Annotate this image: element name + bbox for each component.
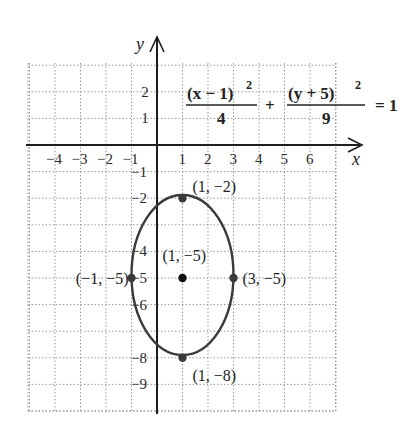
eq-term1-denominator: 4 [217, 109, 226, 128]
eq-term1-numerator: (x − 1) [187, 84, 234, 103]
y-tick-label: 2 [141, 84, 149, 100]
vertex-point [178, 194, 186, 202]
x-tick-label: 5 [281, 151, 289, 167]
y-tick-label: −2 [131, 190, 147, 206]
x-tick-label: −2 [97, 151, 113, 167]
y-tick-label: −9 [131, 376, 147, 392]
y-tick-label: 1 [141, 110, 149, 126]
equation: (x − 1) 2 4 + (y + 5) 2 9 = 1 [186, 78, 397, 128]
point-label: (3, −5) [243, 270, 287, 288]
y-tick-label: −1 [131, 164, 147, 180]
ellipse-graph: x y −4−3−2−1123456 21−1−2−4−5−6−8−9 (1, … [0, 0, 419, 429]
x-tick-label: 3 [230, 151, 238, 167]
x-tick-label: 6 [306, 151, 314, 167]
eq-rhs: = 1 [375, 96, 397, 115]
y-tick-labels: 21−1−2−4−5−6−8−9 [131, 84, 149, 393]
eq-plus: + [265, 96, 275, 115]
y-axis-label: y [134, 34, 144, 54]
vertex-point [178, 354, 186, 362]
x-tick-label: −3 [72, 151, 88, 167]
eq-term2-exponent: 2 [355, 78, 361, 92]
point-label: (−1, −5) [76, 270, 129, 288]
x-tick-label: 4 [255, 151, 263, 167]
point-label: (1, −2) [193, 178, 237, 196]
vertex-point [127, 274, 135, 282]
eq-term1-exponent: 2 [246, 78, 252, 92]
y-tick-label: −8 [131, 350, 147, 366]
eq-term2-denominator: 9 [322, 109, 331, 128]
point-label: (1, −8) [193, 367, 237, 385]
eq-term2-numerator: (y + 5) [288, 84, 335, 103]
x-tick-labels: −4−3−2−1123456 [46, 151, 314, 167]
x-tick-label: −4 [46, 151, 62, 167]
x-tick-label: 1 [179, 151, 187, 167]
x-axis-label: x [351, 149, 360, 169]
point-label: (1, −5) [163, 247, 207, 265]
center-point [178, 274, 186, 282]
vertex-point [229, 274, 237, 282]
x-tick-label: 2 [204, 151, 212, 167]
